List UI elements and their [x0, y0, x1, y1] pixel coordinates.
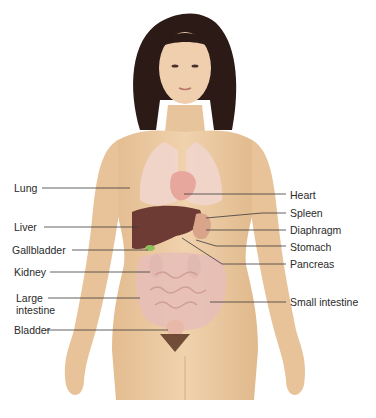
bladder	[166, 320, 184, 336]
label-liver: Liver	[14, 221, 37, 233]
intestines	[136, 252, 226, 330]
label-heart: Heart	[290, 189, 316, 201]
label-large-intestine: Large intestine	[16, 292, 66, 316]
label-gallbladder: Gallbladder	[12, 244, 66, 256]
label-bladder: Bladder	[14, 324, 50, 336]
label-spleen: Spleen	[290, 207, 323, 219]
label-kidney: Kidney	[14, 266, 46, 278]
left-arm	[65, 140, 118, 395]
label-lung: Lung	[14, 182, 37, 194]
label-small-intestine: Small intestine	[290, 296, 358, 308]
label-stomach: Stomach	[290, 241, 331, 253]
anatomy-diagram: Lung Liver Gallbladder Kidney Large inte…	[0, 0, 376, 418]
label-pancreas: Pancreas	[290, 258, 334, 270]
label-diaphragm: Diaphragm	[290, 224, 341, 236]
